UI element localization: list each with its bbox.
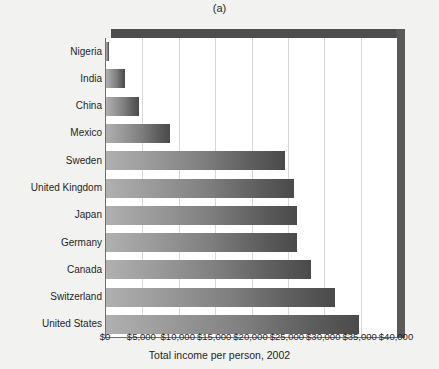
category-label: Switzerland: [6, 291, 102, 302]
bar-row: [106, 69, 397, 88]
bar: [106, 206, 297, 225]
bar-row: [106, 42, 397, 61]
bar: [106, 151, 285, 170]
frame-top-bar: [111, 29, 405, 38]
bar: [106, 288, 335, 307]
category-label: United Kingdom: [6, 182, 102, 193]
bar: [106, 260, 311, 279]
bar-row: [106, 151, 397, 170]
x-axis-title: Total income per person, 2002: [0, 349, 439, 361]
category-label: Japan: [6, 209, 102, 220]
plot-area: [105, 38, 397, 338]
bar: [106, 179, 294, 198]
bar: [106, 124, 170, 143]
x-tick-label: $15,000: [197, 331, 231, 342]
x-axis-tick-labels: $0$5,000$10,000$15,000$20,000$25,000$30,…: [105, 331, 405, 347]
bar-row: [106, 288, 397, 307]
bar: [106, 233, 297, 252]
bar: [106, 97, 139, 116]
category-label: China: [6, 100, 102, 111]
category-axis-labels: NigeriaIndiaChinaMexicoSwedenUnited King…: [2, 29, 102, 339]
category-label: United States: [6, 318, 102, 329]
x-tick-label: $40,000: [379, 331, 413, 342]
category-label: Nigeria: [6, 46, 102, 57]
bar-row: [106, 206, 397, 225]
x-tick-label: $35,000: [342, 331, 376, 342]
frame-right-bar: [396, 29, 405, 338]
x-tick-label: $25,000: [270, 331, 304, 342]
x-tick-label: $0: [100, 331, 111, 342]
figure-title: (a): [0, 2, 439, 14]
x-tick-label: $5,000: [127, 331, 156, 342]
category-label: Canada: [6, 264, 102, 275]
bar-row: [106, 179, 397, 198]
bar-row: [106, 97, 397, 116]
x-tick-label: $30,000: [306, 331, 340, 342]
x-tick-label: $20,000: [233, 331, 267, 342]
figure-container: (a) NigeriaIndiaChinaMexicoSwedenUnited …: [0, 0, 439, 369]
bar-row: [106, 233, 397, 252]
plot-frame: [105, 29, 399, 329]
category-label: India: [6, 73, 102, 84]
bar-row: [106, 124, 397, 143]
category-label: Mexico: [6, 127, 102, 138]
bar: [106, 42, 109, 61]
bar-row: [106, 260, 397, 279]
x-tick-label: $10,000: [161, 331, 195, 342]
category-label: Sweden: [6, 155, 102, 166]
category-label: Germany: [6, 237, 102, 248]
bar: [106, 69, 125, 88]
